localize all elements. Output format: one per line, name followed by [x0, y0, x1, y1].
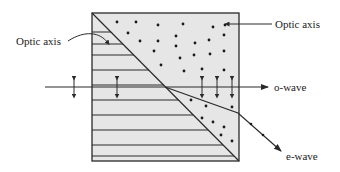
- optic-axis-right-label: Optic axis: [275, 18, 320, 30]
- birefringence-diagram: Optic axis Optic axis o-wave e-wave: [0, 0, 340, 172]
- o-wave-label: o-wave: [274, 81, 306, 93]
- e-wave-label: e-wave: [286, 150, 318, 162]
- optic-axis-left-label: Optic axis: [16, 35, 61, 47]
